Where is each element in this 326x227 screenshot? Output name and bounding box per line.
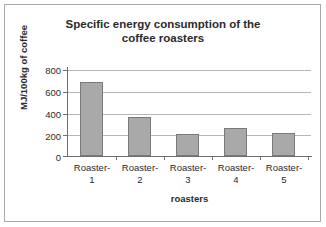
category-label-roaster-3: Roaster- 3 bbox=[164, 162, 212, 185]
bar-roaster-4[interactable] bbox=[224, 128, 247, 156]
category-label-line-1: Roaster- bbox=[170, 162, 206, 173]
bar-roaster-1[interactable] bbox=[80, 82, 103, 157]
y-tick-label: 600 bbox=[21, 88, 61, 97]
x-tick-mark bbox=[308, 156, 309, 160]
chart-frame: Specific energy consumption of the coffe… bbox=[4, 4, 321, 222]
chart-title-line-2: coffee roasters bbox=[122, 32, 204, 44]
category-label-line-2: 5 bbox=[260, 174, 308, 186]
bar-roaster-3[interactable] bbox=[176, 134, 199, 156]
gridline-400 bbox=[68, 114, 311, 115]
x-axis-line bbox=[67, 156, 312, 157]
gridline-800 bbox=[68, 70, 311, 71]
gridline-600 bbox=[68, 92, 311, 93]
y-tick-label: 0 bbox=[21, 153, 61, 162]
category-label-roaster-1: Roaster- 1 bbox=[68, 162, 116, 185]
category-label-line-2: 3 bbox=[164, 174, 212, 186]
category-label-line-2: 4 bbox=[212, 174, 260, 186]
category-label-line-2: 1 bbox=[68, 174, 116, 186]
category-label-line-1: Roaster- bbox=[122, 162, 158, 173]
category-label-line-1: Roaster- bbox=[218, 162, 254, 173]
plot-area bbox=[68, 67, 311, 156]
x-tick-mark bbox=[260, 156, 261, 160]
y-tick-label: 400 bbox=[21, 110, 61, 119]
bar-roaster-2[interactable] bbox=[128, 117, 151, 156]
category-label-line-2: 2 bbox=[116, 174, 164, 186]
category-label-line-1: Roaster- bbox=[266, 162, 302, 173]
y-axis-tick-labels: 800 600 400 200 0 bbox=[17, 5, 61, 223]
y-tick-label: 800 bbox=[21, 66, 61, 75]
category-label-roaster-2: Roaster- 2 bbox=[116, 162, 164, 185]
chart-title-line-1: Specific energy consumption of the bbox=[66, 18, 261, 30]
y-axis-line bbox=[67, 67, 68, 157]
bar-roaster-5[interactable] bbox=[272, 133, 295, 156]
category-label-roaster-5: Roaster- 5 bbox=[260, 162, 308, 185]
x-tick-mark bbox=[212, 156, 213, 160]
category-label-line-1: Roaster- bbox=[74, 162, 110, 173]
category-label-roaster-4: Roaster- 4 bbox=[212, 162, 260, 185]
x-tick-mark bbox=[164, 156, 165, 160]
y-tick-label: 200 bbox=[21, 132, 61, 141]
chart-title: Specific energy consumption of the coffe… bbox=[35, 17, 291, 45]
x-axis-title: roasters bbox=[68, 193, 311, 204]
x-tick-mark bbox=[116, 156, 117, 160]
